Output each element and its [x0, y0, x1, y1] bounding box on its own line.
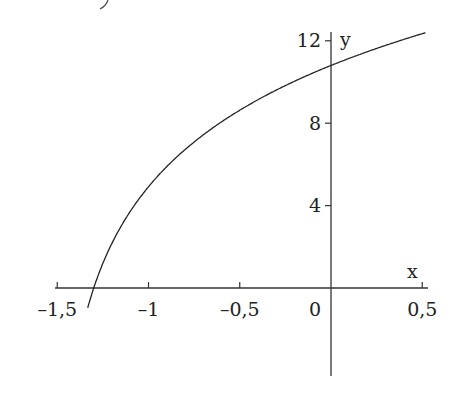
- y-tick-label: 8: [309, 114, 321, 133]
- x-ticks: [57, 282, 422, 288]
- y-axis-label: y: [340, 30, 351, 49]
- x-axis-label: x: [407, 262, 418, 281]
- x-tick-label: –1,5: [37, 300, 77, 319]
- y-tick-label: 4: [309, 196, 321, 215]
- x-tick-label: –0,5: [220, 300, 260, 319]
- y-tick-label: 12: [297, 31, 321, 50]
- x-tick-label: –1: [138, 300, 160, 319]
- header-fragment: [100, 0, 108, 9]
- x-tick-label: 0,5: [407, 300, 437, 319]
- x-tick-label: 0: [309, 300, 321, 319]
- function-curve: [88, 33, 426, 308]
- plot-area: [0, 0, 453, 393]
